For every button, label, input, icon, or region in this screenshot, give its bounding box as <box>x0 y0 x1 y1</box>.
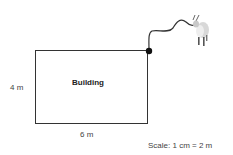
diagram-overlay <box>0 0 233 155</box>
goat-icon <box>193 15 209 46</box>
rope-icon <box>149 20 194 51</box>
tether-post-icon <box>146 48 152 54</box>
